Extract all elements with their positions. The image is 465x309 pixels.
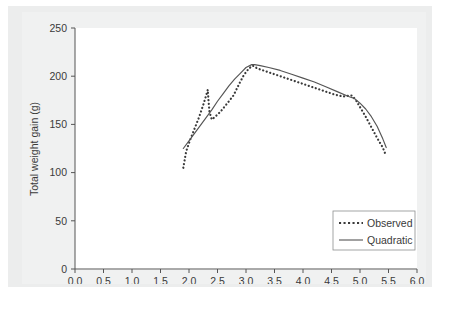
x-tick-label: 3.0	[239, 275, 254, 285]
x-tick-label: 3.5	[267, 275, 282, 285]
x-tick-label: 5.0	[353, 275, 368, 285]
plot-card: 050100150200250 0.00.51.01.52.02.53.03.5…	[22, 12, 426, 284]
y-tick-label: 150	[49, 118, 67, 130]
x-tick-label: 4.0	[296, 275, 311, 285]
legend-label-observed: Observed	[367, 217, 413, 229]
legend: Observed Quadratic	[333, 211, 415, 250]
figure-panel: 050100150200250 0.00.51.01.52.02.53.03.5…	[8, 6, 432, 287]
x-tick-label: 4.5	[324, 275, 339, 285]
x-tick-label: 1.5	[153, 275, 168, 285]
x-tick-label: 6.0	[410, 275, 425, 285]
y-axis-title: Total weight gain (g)	[28, 102, 40, 196]
x-tick-label: 5.5	[381, 275, 396, 285]
y-tick-label: 250	[49, 22, 67, 34]
y-tick-label: 100	[49, 166, 67, 178]
y-axis-ticks: 050100150200250	[49, 22, 75, 275]
figure-root: 050100150200250 0.00.51.01.52.02.53.03.5…	[0, 0, 465, 309]
x-tick-label: 1.0	[125, 275, 140, 285]
y-tick-label: 50	[55, 215, 67, 227]
chart-canvas: 050100150200250 0.00.51.01.52.02.53.03.5…	[22, 12, 426, 284]
x-tick-label: 2.5	[210, 275, 225, 285]
x-axis-ticks: 0.00.51.01.52.02.53.03.54.04.55.05.56.0	[68, 269, 425, 284]
y-tick-label: 200	[49, 70, 67, 82]
legend-label-quadratic: Quadratic	[367, 234, 413, 246]
x-tick-label: 0.0	[68, 275, 83, 285]
x-tick-label: 0.5	[96, 275, 111, 285]
y-tick-label: 0	[61, 263, 67, 275]
x-tick-label: 2.0	[182, 275, 197, 285]
